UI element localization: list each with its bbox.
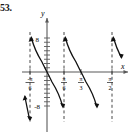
- arrow-up-branch1: [29, 36, 34, 42]
- svg-text:6: 6: [29, 85, 32, 91]
- graph-canvas: 8 -8 y x -π 6 π 6 π 3 π 2: [0, 0, 138, 139]
- arrow-down-branch3: [119, 54, 124, 59]
- svg-text:-π: -π: [27, 76, 32, 82]
- y-tick-label-8: 8: [36, 36, 40, 44]
- y-tick-label-neg8: -8: [34, 103, 40, 111]
- arrow-up-branch3: [111, 36, 116, 42]
- arrow-up-branch2: [63, 36, 68, 42]
- y-axis-label: y: [40, 9, 45, 18]
- arrow-up-left-partial: [23, 95, 28, 101]
- figure-container: 53.: [0, 0, 138, 139]
- arrow-down-branch2: [94, 103, 99, 109]
- asymptote-lines: [30, 32, 112, 122]
- x-axis-label: x: [120, 62, 125, 71]
- svg-text:3: 3: [80, 85, 83, 91]
- svg-text:2: 2: [109, 85, 112, 91]
- svg-text:π: π: [62, 76, 65, 82]
- svg-text:π: π: [79, 76, 82, 82]
- arrow-down-left-partial: [27, 116, 32, 122]
- x-tick-label-pi-3: π 3: [78, 76, 84, 91]
- svg-text:π: π: [108, 76, 111, 82]
- branch-left-partial: [25, 97, 30, 119]
- svg-text:6: 6: [63, 85, 66, 91]
